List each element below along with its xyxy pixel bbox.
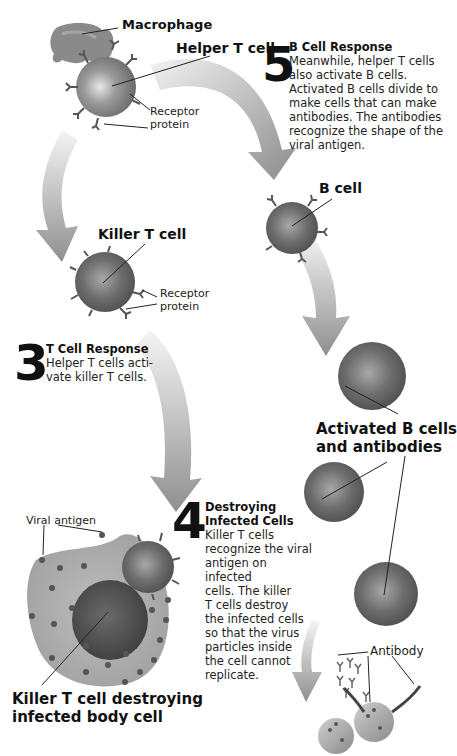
label-macrophage: Macrophage bbox=[122, 17, 212, 32]
label-antibody: Antibody bbox=[370, 645, 424, 658]
label-killer-destroying-1: Killer T cell destroying bbox=[12, 690, 203, 708]
label-activated-b-cells-2: and antibodies bbox=[316, 438, 442, 456]
step-3-title: T Cell Response bbox=[46, 342, 166, 356]
step-4-text-block: Destroying Infected Cells Killer T cells… bbox=[205, 500, 315, 682]
step-5-line: viral antigen. bbox=[289, 138, 444, 152]
step-4-line: recognize the viral bbox=[205, 542, 315, 556]
label-killer-destroying-2: infected body cell bbox=[12, 708, 163, 726]
label-receptor-protein-mid-1: Receptor bbox=[160, 287, 209, 300]
arrow-helper-to-killer bbox=[36, 130, 78, 262]
step-3-line: vate killer T cells. bbox=[46, 370, 166, 384]
step-5-line: recognize the shape of the bbox=[289, 124, 444, 138]
step-4-line: antigen on infected bbox=[205, 556, 315, 584]
label-killer-t-cell: Killer T cell bbox=[98, 226, 186, 242]
step-4-line: replicate. bbox=[205, 668, 315, 682]
step-4-line: particles inside bbox=[205, 640, 315, 654]
label-b-cell: B cell bbox=[319, 180, 362, 196]
step-4-number: 4 bbox=[172, 496, 205, 546]
label-viral-antigen: Viral antigen bbox=[26, 514, 96, 527]
step-4-line: T cells destroy bbox=[205, 598, 315, 612]
step-5-line: Activated B cells divide to bbox=[289, 82, 444, 96]
virus-particle-1 bbox=[318, 718, 354, 754]
step-4-line: the infected cells bbox=[205, 612, 315, 626]
step-5-line: make cells that can make bbox=[289, 96, 444, 110]
step-4-line: cells. The killer bbox=[205, 584, 315, 598]
step-5-line: Meanwhile, helper T cells bbox=[289, 54, 444, 68]
step-5-line: antibodies. The antibodies bbox=[289, 110, 444, 124]
label-receptor-protein-mid-2: protein bbox=[160, 300, 199, 313]
label-receptor-protein-top-1: Receptor bbox=[150, 105, 199, 118]
step-3-line: Helper T cells acti- bbox=[46, 356, 166, 370]
step-4-title-line: Destroying bbox=[205, 500, 315, 514]
step-5-line: also activate B cells. bbox=[289, 68, 444, 82]
step-4-line: Killer T cells bbox=[205, 528, 315, 542]
label-activated-b-cells-1: Activated B cells bbox=[316, 420, 457, 438]
step-4-line: the cell cannot bbox=[205, 654, 315, 668]
label-helper-t-cell: Helper T cell bbox=[176, 40, 275, 56]
step-5-title: B Cell Response bbox=[289, 40, 444, 54]
step-5-text-block: B Cell Response Meanwhile, helper T cell… bbox=[289, 40, 444, 152]
activated-b-cell-3 bbox=[354, 562, 418, 626]
step-3-number: 3 bbox=[14, 338, 47, 388]
step-4-title-line: Infected Cells bbox=[205, 514, 315, 528]
label-receptor-protein-top-2: protein bbox=[150, 118, 189, 131]
step-4-line: so that the virus bbox=[205, 626, 315, 640]
step-3-text-block: T Cell Response Helper T cells acti- vat… bbox=[46, 342, 166, 384]
